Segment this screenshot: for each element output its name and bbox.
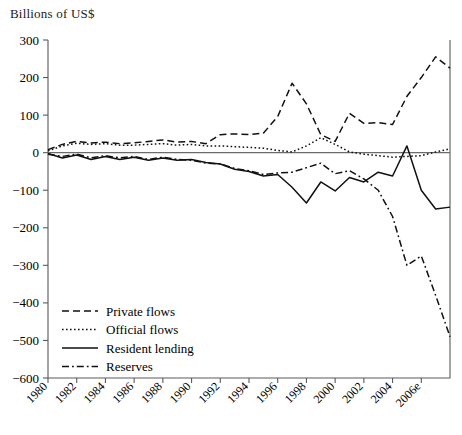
x-axis-tick-label: 1990: [167, 379, 194, 406]
x-axis-tick-label: 1994: [224, 379, 251, 406]
x-axis-tick-label: 1988: [138, 379, 165, 406]
legend-label-private-flows: Private flows: [106, 304, 175, 319]
x-axis-tick-label: 1984: [81, 379, 108, 406]
y-axis-tick-label: −200: [12, 220, 39, 235]
x-axis-tick-label: 1986: [109, 379, 136, 406]
y-axis-tick-label: −100: [12, 183, 39, 198]
y-axis-tick-label: 100: [20, 108, 40, 123]
x-axis-tick-label: 2006e: [393, 379, 424, 410]
series-line-official-flows: [48, 138, 450, 158]
legend-label-official-flows: Official flows: [106, 322, 178, 337]
series-line-private-flows: [48, 57, 450, 150]
chart-container: Billions of US$ 3002001000−100−200−300−4…: [0, 0, 462, 435]
x-axis-tick-label: 1998: [282, 379, 309, 406]
y-axis-tick-label: −400: [12, 295, 39, 310]
y-axis-tick-label: 0: [33, 145, 40, 160]
y-axis-tick-label: 300: [20, 33, 40, 48]
y-axis-tick-label: −500: [12, 333, 39, 348]
y-axis-tick-label: −300: [12, 258, 39, 273]
legend-label-reserves: Reserves: [106, 359, 153, 374]
legend-label-resident-lending: Resident lending: [106, 341, 194, 356]
chart-svg: 3002001000−100−200−300−400−500−600198019…: [0, 0, 462, 435]
x-axis-tick-label: 1992: [196, 379, 223, 406]
plot-area: 3002001000−100−200−300−400−500−600198019…: [0, 0, 462, 435]
x-axis-tick-label: 1996: [253, 379, 280, 406]
x-axis-tick-label: 2004: [368, 379, 395, 406]
x-axis-tick-label: 2000: [310, 379, 337, 406]
y-axis-tick-label: 200: [20, 70, 40, 85]
x-axis-tick-label: 2002: [339, 379, 366, 406]
x-axis-tick-label: 1982: [52, 379, 79, 406]
